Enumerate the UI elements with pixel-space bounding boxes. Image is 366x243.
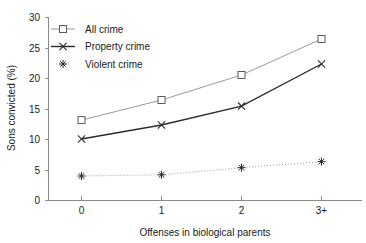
square-marker-icon xyxy=(238,72,245,79)
chart-legend: All crime Property crime xyxy=(51,24,150,70)
x-tick-label-0: 0 xyxy=(79,205,85,216)
y-tick-label-5: 5 xyxy=(34,165,40,176)
y-axis-title: Sons convicted (%) xyxy=(6,65,17,151)
square-marker-icon xyxy=(158,97,165,104)
legend-label-violent-crime: Violent crime xyxy=(85,59,143,70)
x-tick-group: 0 1 2 3+ xyxy=(79,196,328,217)
star-marker-icon xyxy=(78,172,86,180)
y-tick-label-20: 20 xyxy=(29,73,41,84)
line-chart: 0 5 10 15 20 25 30 0 1 2 3+ Sons convict… xyxy=(0,0,366,243)
legend-item-violent-crime[interactable]: Violent crime xyxy=(56,59,143,70)
legend-item-property-crime[interactable]: Property crime xyxy=(51,41,150,52)
star-marker-icon xyxy=(59,60,67,68)
y-tick-label-10: 10 xyxy=(29,134,41,145)
x-tick-label-2: 2 xyxy=(239,205,245,216)
square-marker-icon xyxy=(318,36,325,43)
x-tick-label-3p: 3+ xyxy=(316,205,328,216)
star-marker-icon xyxy=(238,164,246,172)
square-marker-icon xyxy=(78,117,85,124)
series-property-crime xyxy=(78,60,325,142)
y-tick-label-25: 25 xyxy=(29,43,41,54)
y-tick-label-0: 0 xyxy=(34,195,40,206)
series-violent-crime xyxy=(78,158,326,180)
y-tick-label-15: 15 xyxy=(29,104,41,115)
square-marker-icon xyxy=(60,26,67,33)
violent-crime-line xyxy=(82,162,322,176)
y-tick-label-30: 30 xyxy=(29,12,41,23)
x-axis-title: Offenses in biological parents xyxy=(139,227,270,238)
star-marker-icon xyxy=(158,171,166,179)
legend-label-all-crime: All crime xyxy=(85,24,124,35)
property-crime-line xyxy=(82,64,322,139)
property-crime-markers xyxy=(78,60,325,142)
chart-plot-area: 0 5 10 15 20 25 30 0 1 2 3+ Sons convict… xyxy=(0,0,366,243)
legend-item-all-crime[interactable]: All crime xyxy=(51,24,124,35)
star-marker-icon xyxy=(318,158,326,166)
cross-marker-icon xyxy=(318,60,325,67)
y-tick-group: 0 5 10 15 20 25 30 xyxy=(29,12,49,206)
legend-label-property-crime: Property crime xyxy=(85,41,150,52)
violent-crime-markers xyxy=(78,158,326,180)
x-tick-label-1: 1 xyxy=(159,205,165,216)
